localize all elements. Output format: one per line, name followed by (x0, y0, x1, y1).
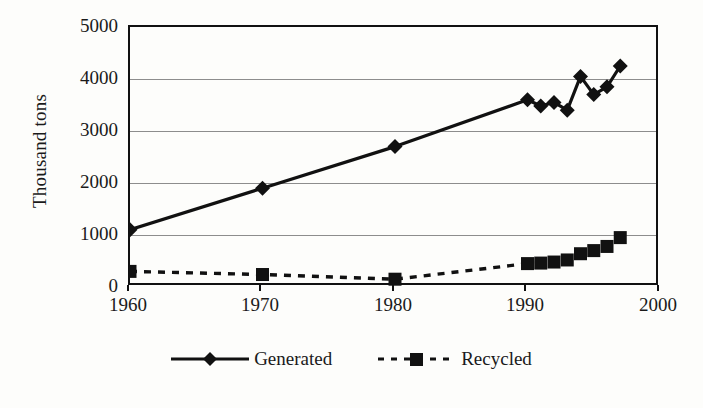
series-layer (130, 27, 660, 287)
markers-generated (130, 59, 628, 238)
legend-item-generated: Generated (171, 348, 332, 370)
legend-label-generated: Generated (254, 348, 332, 370)
x-tickmark-1990 (524, 285, 526, 291)
marker-generated (613, 59, 628, 74)
legend-swatch-generated (171, 351, 249, 367)
y-tick-1000: 1000 (60, 224, 118, 243)
marker-generated (520, 92, 535, 107)
y-tick-3000: 3000 (60, 120, 118, 139)
y-axis-title: Thousand tons (29, 41, 51, 261)
marker-recycled (256, 268, 269, 281)
x-tickmark-1960 (127, 285, 129, 291)
y-tick-0: 0 (60, 276, 118, 295)
marker-generated (388, 139, 403, 154)
marker-recycled (561, 253, 574, 266)
marker-recycled (130, 265, 137, 278)
y-tick-4000: 4000 (60, 68, 118, 87)
marker-recycled (574, 247, 587, 260)
x-tickmark-2000 (657, 285, 659, 291)
marker-generated (130, 222, 138, 237)
x-tick-1960: 1960 (83, 295, 173, 314)
legend-item-recycled: Recycled (378, 348, 532, 370)
y-tick-2000: 2000 (60, 172, 118, 191)
marker-generated (547, 95, 562, 110)
x-tick-1970: 1970 (215, 295, 305, 314)
x-tick-2000: 2000 (613, 295, 703, 314)
marker-recycled (548, 256, 561, 269)
x-tickmark-1980 (392, 285, 394, 291)
marker-recycled (601, 240, 614, 253)
y-tick-5000: 5000 (60, 16, 118, 35)
marker-generated (255, 181, 270, 196)
x-tick-1990: 1990 (480, 295, 570, 314)
marker-recycled (587, 244, 600, 257)
marker-generated (560, 103, 575, 118)
line-generated (130, 66, 620, 230)
chart-legend: Generated Recycled (0, 348, 703, 370)
marker-recycled (614, 231, 627, 244)
marker-recycled (534, 257, 547, 270)
marker-generated (533, 99, 548, 114)
page-bleed-through (30, 372, 34, 392)
plot-area (128, 25, 658, 285)
x-tick-1980: 1980 (348, 295, 438, 314)
chart-figure: Thousand tons 5000 4000 3000 2000 1000 0… (0, 0, 703, 408)
x-tickmark-1970 (259, 285, 261, 291)
legend-label-recycled: Recycled (461, 348, 532, 370)
markers-recycled (130, 231, 627, 286)
legend-swatch-recycled (378, 351, 456, 367)
marker-recycled (521, 257, 534, 270)
marker-recycled (389, 273, 402, 286)
marker-generated (600, 79, 615, 94)
